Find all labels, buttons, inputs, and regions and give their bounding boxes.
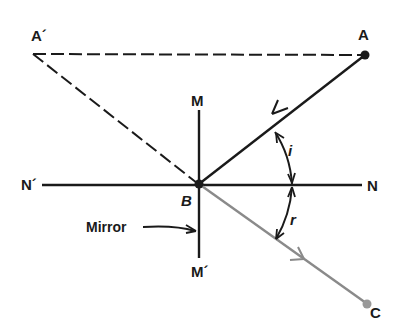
point-A: [361, 51, 370, 60]
label-C: C: [370, 305, 381, 320]
label-mirror: Mirror: [86, 220, 126, 234]
point-B: [195, 180, 204, 189]
label-A: A: [358, 27, 369, 42]
label-angle-i: i: [288, 143, 292, 158]
reflected-ray: [199, 184, 366, 303]
label-N-prime: N´: [21, 177, 37, 192]
incident-ray: [199, 55, 365, 184]
mirror-pointer-arrow: [143, 227, 195, 232]
virtual-ray-line: [33, 54, 197, 183]
label-M-prime: M´: [191, 264, 209, 279]
label-N: N: [367, 178, 378, 193]
label-M: M: [191, 93, 204, 108]
label-B: B: [181, 193, 192, 208]
label-angle-r: r: [290, 212, 296, 227]
label-A-prime: A´: [31, 28, 47, 43]
image-line-horizontal: [33, 54, 363, 55]
reflection-diagram: [0, 0, 408, 332]
incident-arrow-icon: [272, 100, 288, 114]
